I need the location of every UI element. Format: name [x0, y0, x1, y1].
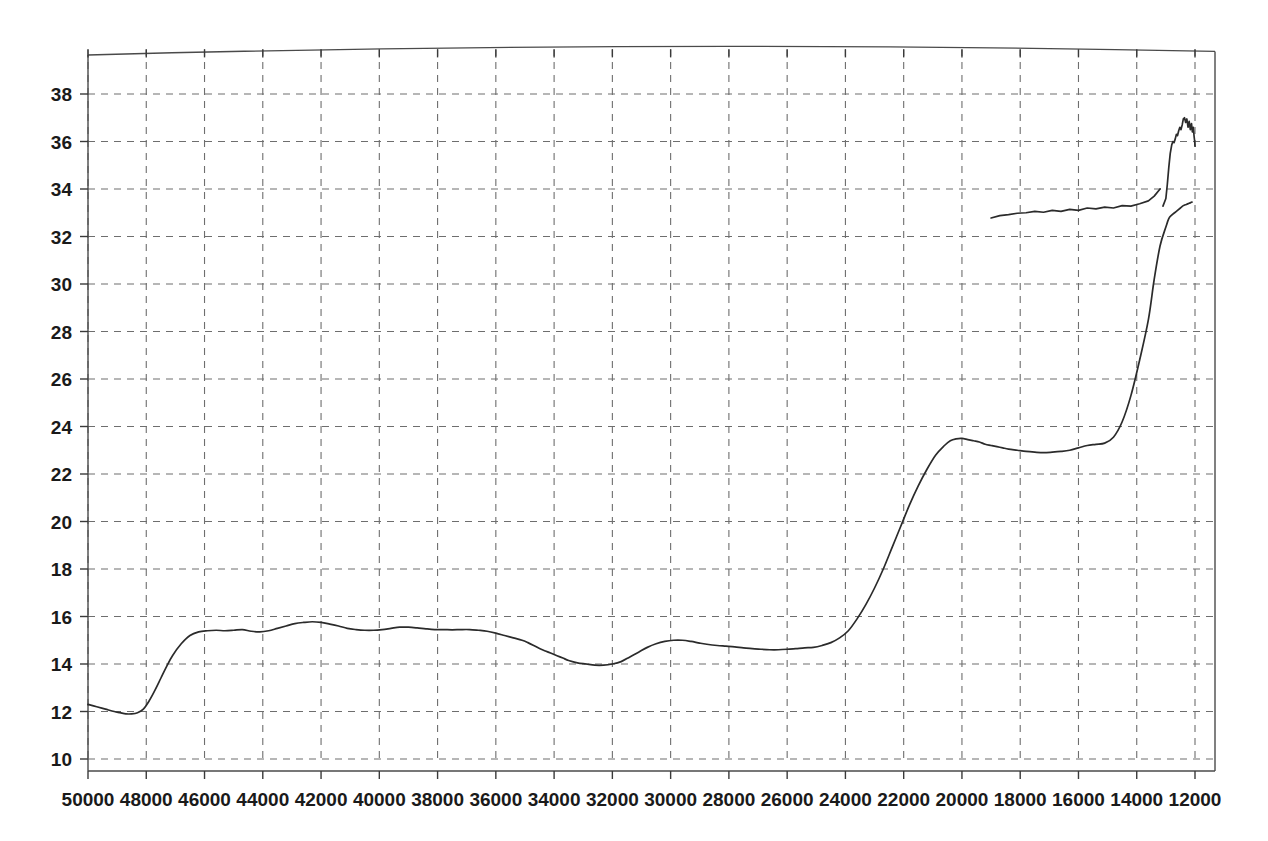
x-tick-label: 34000 [528, 789, 581, 810]
x-tick-label: 42000 [295, 789, 348, 810]
x-tick-label: 30000 [644, 789, 697, 810]
y-tick-label: 38 [51, 84, 72, 105]
y-axis-tick-labels: 101214161820222426283032343638 [51, 84, 73, 770]
x-tick-label: 16000 [1052, 789, 1105, 810]
x-tick-label: 24000 [819, 789, 872, 810]
y-tick-label: 34 [51, 179, 73, 200]
tick-marks [80, 49, 1195, 779]
x-tick-label: 48000 [120, 789, 173, 810]
x-tick-label: 44000 [236, 789, 289, 810]
plot-frame [88, 46, 1215, 771]
y-tick-label: 10 [51, 749, 72, 770]
y-tick-label: 22 [51, 464, 72, 485]
y-tick-label: 26 [51, 369, 72, 390]
y-tick-label: 14 [51, 654, 73, 675]
x-tick-label: 22000 [877, 789, 930, 810]
y-tick-label: 12 [51, 702, 72, 723]
x-tick-label: 38000 [411, 789, 464, 810]
x-tick-label: 40000 [353, 789, 406, 810]
line-chart: 101214161820222426283032343638 500004800… [0, 0, 1268, 841]
y-tick-label: 28 [51, 322, 72, 343]
data-curve-plateau-detail [991, 189, 1160, 218]
y-tick-label: 30 [51, 274, 72, 295]
data-series-line [88, 118, 1195, 714]
y-tick-label: 36 [51, 132, 72, 153]
x-tick-label: 32000 [586, 789, 639, 810]
y-tick-label: 24 [51, 417, 73, 438]
y-tick-label: 16 [51, 607, 72, 628]
y-tick-label: 20 [51, 512, 72, 533]
y-tick-label: 32 [51, 227, 72, 248]
x-tick-label: 12000 [1169, 789, 1222, 810]
x-tick-label: 18000 [994, 789, 1047, 810]
data-curve-path [88, 202, 1192, 714]
x-tick-label: 14000 [1110, 789, 1163, 810]
chart-container: 101214161820222426283032343638 500004800… [0, 0, 1268, 841]
x-tick-label: 28000 [702, 789, 755, 810]
data-curve-tail-detail [1163, 118, 1195, 206]
grid-lines [88, 49, 1215, 759]
y-tick-label: 18 [51, 559, 72, 580]
x-tick-label: 46000 [178, 789, 231, 810]
x-tick-label: 20000 [936, 789, 989, 810]
x-tick-label: 50000 [62, 789, 115, 810]
x-axis-tick-labels: 5000048000460004400042000400003800036000… [62, 789, 1222, 810]
x-tick-label: 26000 [761, 789, 814, 810]
x-tick-label: 36000 [469, 789, 522, 810]
